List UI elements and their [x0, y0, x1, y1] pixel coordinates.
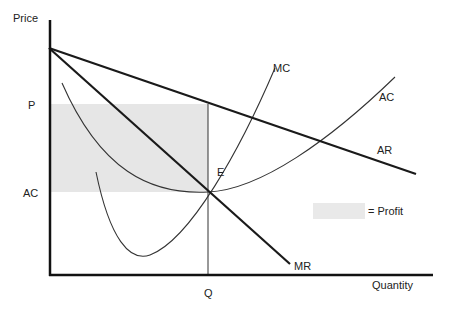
- profit-area: [50, 104, 208, 192]
- quantity-level-label: Q: [204, 287, 213, 299]
- price-level-label: P: [28, 99, 35, 111]
- ac-label: AC: [379, 91, 394, 103]
- monopoly-diagram: = Profit Price Quantity P AC Q MC AC AR …: [0, 0, 451, 311]
- x-axis-label: Quantity: [372, 279, 413, 291]
- profit-legend-swatch: [313, 203, 365, 219]
- ar-label: AR: [377, 144, 392, 156]
- mr-label: MR: [294, 260, 311, 272]
- y-axis-label: Price: [13, 12, 38, 24]
- profit-legend-label: = Profit: [368, 205, 403, 217]
- cost-level-label: AC: [23, 187, 38, 199]
- equilibrium-label: E: [217, 166, 224, 178]
- mc-label: MC: [273, 62, 290, 74]
